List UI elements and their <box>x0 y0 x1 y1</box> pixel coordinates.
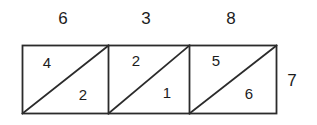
region-label-rect2-lower: 1 <box>159 85 175 100</box>
diagonal-lines <box>23 46 277 114</box>
diagonal-line-2 <box>109 46 190 114</box>
top-dimension-label-3: 8 <box>222 10 240 27</box>
top-dimension-label-2: 3 <box>137 10 155 27</box>
region-label-rect3-lower: 6 <box>241 86 257 101</box>
diagonal-line-3 <box>190 46 277 114</box>
right-dimension-label: 7 <box>284 72 300 89</box>
region-label-rect1-upper: 4 <box>39 55 55 70</box>
region-label-rect3-upper: 5 <box>208 53 224 68</box>
diagonal-line-1 <box>23 46 109 114</box>
region-label-rect1-lower: 2 <box>75 87 91 102</box>
top-dimension-label-1: 6 <box>54 10 72 27</box>
geometry-figure: 6 3 8 7 4 2 2 1 5 6 <box>0 0 317 125</box>
region-label-rect2-upper: 2 <box>128 53 144 68</box>
